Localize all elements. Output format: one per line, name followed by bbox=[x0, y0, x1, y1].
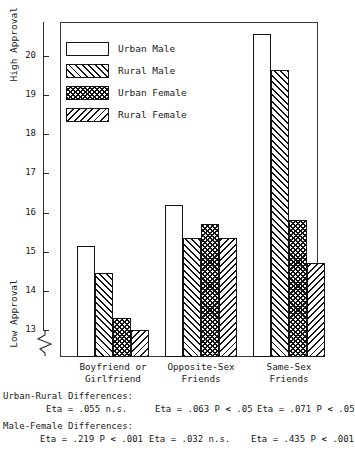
bar-urban-male-group-3 bbox=[253, 34, 271, 357]
bar-rural-female-group-2 bbox=[219, 238, 237, 357]
urban-rural-stat-3: Eta = .071 P < .05 bbox=[257, 403, 355, 415]
category-label-line1: Same-Sex bbox=[234, 361, 344, 373]
legend-item-urban-male: Urban Male bbox=[66, 38, 187, 60]
chart-title bbox=[0, 0, 350, 2]
legend-swatch-icon bbox=[66, 64, 109, 78]
legend-swatch-icon bbox=[66, 108, 109, 122]
bar-urban-male-group-2 bbox=[165, 205, 183, 357]
bar-rural-male-group-2 bbox=[183, 238, 201, 357]
legend-item-urban-female: Urban Female bbox=[66, 82, 187, 104]
category-label-line2: Friends bbox=[234, 373, 344, 385]
bar-urban-female-group-2 bbox=[201, 224, 219, 357]
y-axis-tick bbox=[43, 134, 49, 135]
male-female-heading: Male-Female Differences: bbox=[3, 420, 350, 432]
y-axis-tick bbox=[43, 173, 49, 174]
y-axis-tick-label: 19 bbox=[14, 90, 36, 99]
urban-rural-stat-1: Eta = .055 n.s. bbox=[46, 403, 127, 415]
legend-label: Urban Male bbox=[118, 44, 175, 54]
bar-urban-female-group-3 bbox=[289, 220, 307, 357]
y-axis-tick-label: 17 bbox=[14, 168, 36, 177]
y-axis-tick bbox=[43, 95, 49, 96]
legend-swatch-icon bbox=[66, 86, 109, 100]
urban-rural-heading: Urban-Rural Differences: bbox=[3, 390, 350, 402]
bar-rural-female-group-3 bbox=[307, 263, 325, 357]
y-axis-tick-label: 15 bbox=[14, 247, 36, 256]
bar-rural-male-group-3 bbox=[271, 70, 289, 357]
urban-rural-values-row: Eta = .055 n.s.Eta = .063 P < .05Eta = .… bbox=[3, 403, 350, 415]
y-axis-tick bbox=[43, 56, 49, 57]
y-axis-tick bbox=[43, 252, 49, 253]
male-female-stat-2: Eta = .032 n.s. bbox=[149, 433, 230, 445]
y-axis-tick-label: 16 bbox=[14, 208, 36, 217]
legend-label: Rural Male bbox=[118, 66, 175, 76]
legend-item-rural-male: Rural Male bbox=[66, 60, 187, 82]
axis-break-icon bbox=[36, 330, 54, 356]
chart-legend: Urban MaleRural MaleUrban FemaleRural Fe… bbox=[66, 38, 187, 126]
legend-label: Rural Female bbox=[118, 110, 187, 120]
legend-item-rural-female: Rural Female bbox=[66, 104, 187, 126]
category-label-3: Same-SexFriends bbox=[234, 361, 344, 384]
male-female-values-row: Eta = .219 P < .001Eta = .032 n.s.Eta = … bbox=[3, 433, 350, 445]
y-axis-tick bbox=[43, 213, 49, 214]
y-axis-tick bbox=[43, 291, 49, 292]
y-axis-line bbox=[43, 22, 44, 330]
y-axis-low-label: Low Approval bbox=[8, 279, 19, 349]
bar-urban-female-group-1 bbox=[113, 318, 131, 357]
bar-rural-female-group-1 bbox=[131, 330, 149, 357]
urban-rural-stat-2: Eta = .063 P < .05 bbox=[155, 403, 253, 415]
statistics-block: Urban-Rural Differences: Eta = .055 n.s.… bbox=[3, 390, 350, 450]
male-female-stat-1: Eta = .219 P < .001 bbox=[40, 433, 143, 445]
bar-urban-male-group-1 bbox=[77, 246, 95, 357]
legend-label: Urban Female bbox=[118, 88, 187, 98]
bar-rural-male-group-1 bbox=[95, 273, 113, 357]
male-female-stat-3: Eta = .435 P < .001 bbox=[251, 433, 354, 445]
legend-swatch-icon bbox=[66, 42, 109, 56]
y-axis-tick-label: 18 bbox=[14, 129, 36, 138]
y-axis-high-label: High Approval bbox=[8, 10, 19, 82]
